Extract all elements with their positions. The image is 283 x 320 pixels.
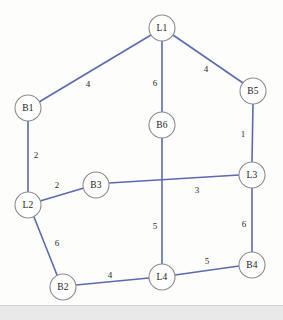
node-label-b2: B2	[57, 282, 69, 292]
edge-weight-l4-b4: 5	[205, 256, 210, 266]
node-label-l4: L4	[157, 272, 168, 282]
node-l2[interactable]: L2	[15, 192, 41, 218]
node-label-b3: B3	[90, 180, 102, 190]
node-label-b4: B4	[246, 260, 258, 270]
node-b4[interactable]: B4	[239, 252, 265, 278]
edge-weight-b1-l2: 2	[34, 150, 39, 160]
edge-weight-l2-b2: 6	[55, 238, 60, 248]
node-l3[interactable]: L3	[239, 162, 265, 188]
node-b6[interactable]: B6	[149, 112, 175, 138]
node-b3[interactable]: B3	[83, 172, 109, 198]
edge-weight-b3-l3: 3	[195, 185, 200, 195]
node-label-l1: L1	[157, 23, 168, 33]
node-l4[interactable]: L4	[149, 264, 175, 290]
edge-weight-b2-l4: 4	[108, 270, 113, 280]
edge-weight-l3-b4: 6	[242, 219, 247, 229]
edge-weight-l1-b6: 6	[153, 78, 158, 88]
edge-l2-b2[interactable]	[34, 217, 57, 275]
edge-weight-l1-b5: 4	[204, 64, 209, 74]
edge-weight-l2-b3: 2	[55, 180, 60, 190]
edge-weight-b5-l3: 1	[241, 129, 246, 139]
edge-l1-b5[interactable]	[173, 35, 243, 83]
edge-weight-group: 4 6 4 1 2 2 3 5 6 6 4 5	[34, 64, 247, 280]
node-l1[interactable]: L1	[149, 15, 175, 41]
node-label-l2: L2	[23, 200, 34, 210]
node-label-b6: B6	[156, 120, 168, 130]
node-label-b5: B5	[247, 86, 259, 96]
node-b2[interactable]: B2	[50, 274, 76, 300]
edge-b1-l1[interactable]	[39, 35, 151, 102]
bottom-divider-band	[0, 305, 283, 320]
edge-group	[28, 35, 253, 285]
node-b1[interactable]: B1	[15, 95, 41, 121]
node-group: L1 B5 B1 B6 L3 B3	[15, 15, 266, 300]
edge-weight-b6-l4: 5	[153, 221, 158, 231]
edge-b2-l4[interactable]	[76, 278, 149, 285]
network-graph: 4 6 4 1 2 2 3 5 6 6 4 5 L1 B5 B1	[0, 0, 283, 320]
edge-b3-l3[interactable]	[109, 175, 239, 183]
node-b5[interactable]: B5	[240, 78, 266, 104]
diagram-canvas: 4 6 4 1 2 2 3 5 6 6 4 5 L1 B5 B1	[0, 0, 283, 320]
node-label-b1: B1	[22, 103, 34, 113]
edge-l2-b3[interactable]	[40, 188, 84, 201]
edge-l4-b4[interactable]	[175, 266, 239, 275]
edge-b5-l3[interactable]	[252, 104, 253, 162]
node-label-l3: L3	[247, 170, 258, 180]
edge-weight-b1-l1: 4	[86, 79, 91, 89]
